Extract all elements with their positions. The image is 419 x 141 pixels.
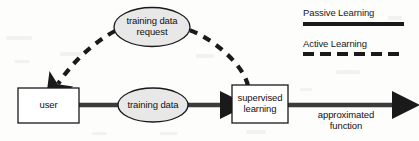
node-training-data	[118, 88, 188, 122]
node-training-data-request	[114, 8, 190, 47]
legend-label-passive-learning: Passive Learning	[303, 7, 374, 18]
edge-label-line2: function	[300, 121, 392, 132]
edge-supervised-learning-to-request	[189, 30, 248, 86]
edge-label-approximated-function: approximated function	[300, 110, 392, 131]
legend-label-active-learning: Active Learning	[303, 38, 367, 49]
node-supervised-learning	[232, 85, 288, 123]
edge-label-line1: approximated	[300, 110, 392, 121]
node-user	[18, 88, 79, 123]
diagram-canvas: training data request user training data…	[0, 0, 419, 141]
edge-request-to-user	[58, 31, 115, 84]
